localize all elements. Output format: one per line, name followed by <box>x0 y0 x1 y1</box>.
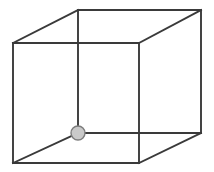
edge-connector-bottom-left <box>13 133 78 163</box>
edge-connector-top-left <box>13 10 78 43</box>
edge-connector-bottom-right <box>139 133 201 163</box>
edge-connector-top-right <box>139 10 201 43</box>
marked-vertex-marker <box>71 126 85 140</box>
cube-figure <box>0 0 214 172</box>
cube-diagram <box>0 0 214 172</box>
